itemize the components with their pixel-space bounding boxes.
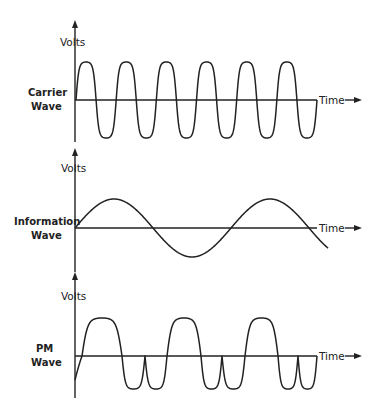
carrier-x-arrow-icon [354,97,362,103]
carrier-y-arrow-icon [72,20,78,28]
pm-waveform [75,318,317,389]
pm-x-arrow-icon [354,353,362,359]
pm-y-label: Volts [61,290,86,302]
information-x-arrow-icon [354,225,362,231]
carrier-x-label: Time [318,94,345,106]
pm-label-line1: PM [36,343,53,354]
carrier-y-label: Volts [60,36,85,48]
information-y-arrow-icon [72,148,78,156]
information-label-line2: Wave [31,230,62,241]
pm-y-arrow-icon [72,272,78,280]
carrier-panel: Volts Time Carrier Wave [28,20,362,142]
pm-panel: Volts Time PM Wave [31,272,362,398]
information-label-line1: Information [14,216,80,227]
pm-modulation-diagram: Volts Time Carrier Wave Volts Time Infor… [0,0,383,413]
information-y-label: Volts [61,162,86,174]
information-panel: Volts Time Information Wave [14,148,362,272]
carrier-label-line2: Wave [31,101,62,112]
pm-label-line2: Wave [31,357,62,368]
information-x-label: Time [318,222,345,234]
pm-x-label: Time [318,350,345,362]
carrier-label-line1: Carrier [28,87,67,98]
